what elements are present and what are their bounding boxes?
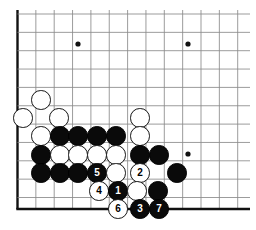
move-number-label: 4 — [96, 186, 101, 196]
move-stone-7: 7 — [149, 199, 169, 219]
black-stone — [106, 126, 126, 146]
black-stone — [50, 163, 70, 183]
white-stone — [106, 163, 126, 183]
star-point — [75, 41, 80, 46]
move-number-label: 5 — [94, 168, 99, 178]
move-stone-5: 5 — [87, 163, 107, 183]
white-stone — [31, 126, 51, 146]
move-stone-3: 3 — [130, 199, 150, 219]
black-stone — [130, 145, 150, 165]
white-stone — [127, 181, 147, 201]
move-number-label: 3 — [137, 204, 142, 214]
move-number-label: 6 — [115, 204, 120, 214]
white-stone — [87, 145, 107, 165]
go-board-diagram: 5241637 — [0, 0, 256, 230]
move-stone-1: 1 — [108, 181, 128, 201]
move-number-label: 7 — [156, 204, 161, 214]
black-stone — [31, 163, 51, 183]
white-stone — [13, 108, 33, 128]
move-stone-6: 6 — [108, 199, 128, 219]
move-number-label: 2 — [137, 168, 142, 178]
white-stone — [50, 145, 70, 165]
black-stone — [68, 163, 88, 183]
white-stone — [31, 90, 51, 110]
black-stone — [167, 163, 187, 183]
black-stone — [149, 145, 169, 165]
move-stone-2: 2 — [130, 163, 150, 183]
black-stone — [68, 126, 88, 146]
black-stone — [87, 126, 107, 146]
move-stone-4: 4 — [89, 181, 109, 201]
white-stone — [130, 108, 150, 128]
white-stone — [68, 145, 88, 165]
white-stone — [49, 108, 69, 128]
white-stone — [106, 145, 126, 165]
black-stone — [31, 145, 51, 165]
star-point — [185, 151, 190, 156]
star-point — [185, 41, 190, 46]
white-stone — [130, 126, 150, 146]
move-number-label: 1 — [115, 186, 120, 196]
black-stone — [148, 181, 168, 201]
black-stone — [50, 126, 70, 146]
